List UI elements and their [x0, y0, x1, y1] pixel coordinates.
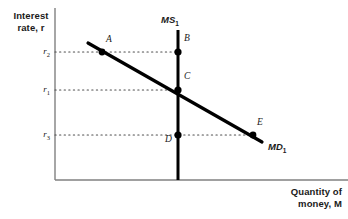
tick-label-r2-sub: 2	[47, 51, 50, 58]
money-supply-label: MS1	[161, 14, 179, 25]
y-axis-title: Interest rate, r	[8, 10, 54, 33]
point-c-label: C	[184, 71, 190, 81]
point-d-label: D	[165, 134, 172, 144]
point-d	[174, 131, 181, 138]
tick-label-r3-sub: 3	[47, 134, 50, 141]
money-supply-label-base: MS	[161, 14, 175, 25]
point-e-label: E	[257, 117, 263, 127]
point-b-label: B	[184, 33, 190, 43]
point-e	[250, 132, 257, 139]
y-axis-title-line1: Interest	[8, 10, 54, 22]
money-demand-label-base: MD	[268, 141, 283, 152]
tick-label-r3: r3	[28, 129, 50, 139]
money-demand-label: MD1	[268, 141, 286, 152]
point-a	[99, 49, 106, 56]
tick-label-r1: r1	[28, 84, 50, 94]
tick-label-r1-sub: 1	[47, 89, 50, 96]
point-b	[174, 48, 181, 55]
money-demand-label-sub: 1	[283, 147, 287, 154]
money-market-figure: Interest rate, r Quantity of money, M r2…	[0, 0, 348, 219]
money-supply-label-sub: 1	[175, 20, 179, 27]
point-a-label: A	[106, 34, 112, 44]
x-axis-title-line2: money, M	[248, 198, 342, 210]
money-demand-curve	[88, 43, 262, 142]
x-axis-title: Quantity of money, M	[248, 186, 342, 209]
tick-label-r2: r2	[28, 46, 50, 56]
y-axis-title-line2: rate, r	[8, 22, 54, 34]
point-c	[174, 86, 181, 93]
x-axis-title-line1: Quantity of	[248, 186, 342, 198]
